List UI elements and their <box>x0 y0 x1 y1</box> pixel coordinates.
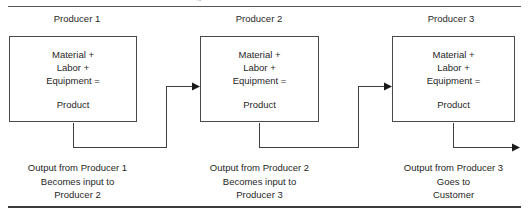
producer-box-3-inputs: Material + Labor + Equipment = <box>427 48 481 87</box>
caption-producer-2-line-3: Producer 3 <box>187 188 332 202</box>
caption-producer-1: Output from Producer 1 Becomes input to … <box>5 161 150 202</box>
caption-producer-3-line-3: Customer <box>381 188 526 202</box>
producer-box-1[interactable]: Material + Labor + Equipment = Product <box>9 36 137 122</box>
top-divider-rule <box>8 6 521 7</box>
producer-box-3-line-product: Product <box>437 98 470 111</box>
caption-producer-1-line-2: Becomes input to <box>5 175 150 189</box>
cropped-title-fragment: g <box>196 0 210 1</box>
caption-producer-3-line-2: Goes to <box>381 175 526 189</box>
bottom-divider-rule <box>8 206 521 208</box>
producer-box-3-line-material: Material + <box>427 48 481 61</box>
producer-box-2-line-equipment: Equipment = <box>233 74 287 87</box>
producer-box-3-line-labor: Labor + <box>427 61 481 74</box>
producer-box-1-line-equipment: Equipment = <box>46 74 100 87</box>
producer-box-3-line-equipment: Equipment = <box>427 74 481 87</box>
caption-producer-2-line-2: Becomes input to <box>187 175 332 189</box>
producer-box-2-line-material: Material + <box>233 48 287 61</box>
caption-producer-1-line-1: Output from Producer 1 <box>5 161 150 175</box>
producer-box-3[interactable]: Material + Labor + Equipment = Product <box>392 36 515 122</box>
caption-producer-1-line-3: Producer 2 <box>5 188 150 202</box>
producer-box-1-inputs: Material + Labor + Equipment = <box>46 48 100 87</box>
producer-box-2[interactable]: Material + Labor + Equipment = Product <box>200 36 319 122</box>
caption-producer-3-line-1: Output from Producer 3 <box>381 161 526 175</box>
caption-producer-2-line-1: Output from Producer 2 <box>187 161 332 175</box>
column-header-producer-3: Producer 3 <box>383 13 519 25</box>
producer-box-1-line-product: Product <box>57 98 90 111</box>
producer-box-1-line-labor: Labor + <box>46 61 100 74</box>
column-header-producer-2: Producer 2 <box>191 13 327 25</box>
producer-box-2-line-labor: Labor + <box>233 61 287 74</box>
producer-box-1-line-material: Material + <box>46 48 100 61</box>
caption-producer-2: Output from Producer 2 Becomes input to … <box>187 161 332 202</box>
producer-box-2-inputs: Material + Labor + Equipment = <box>233 48 287 87</box>
column-header-producer-1: Producer 1 <box>9 13 145 25</box>
connector-producer-3-to-customer-icon <box>454 123 521 152</box>
production-chain-diagram: g Producer 1 Producer 2 Producer 3 Mater… <box>0 0 528 214</box>
caption-producer-3: Output from Producer 3 Goes to Customer <box>381 161 526 202</box>
producer-box-2-line-product: Product <box>243 98 276 111</box>
